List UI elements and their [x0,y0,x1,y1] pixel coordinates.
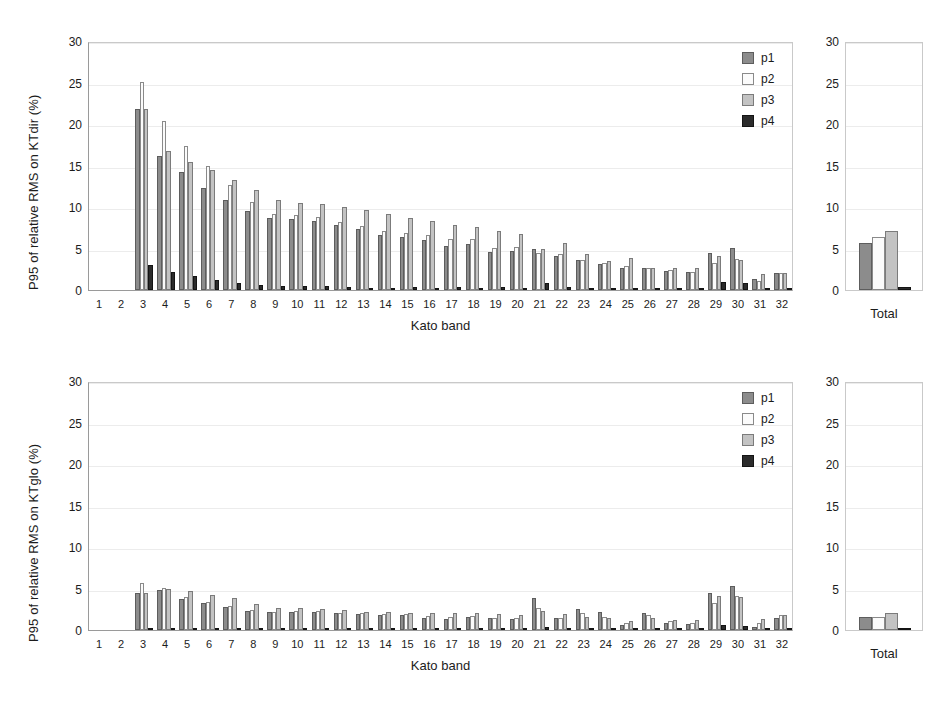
bar-group [530,43,552,290]
bar-p4 [589,288,593,290]
x-tick-label: 30 [727,299,749,310]
legend-item-p1[interactable]: p1 [742,390,802,407]
legend-label-p2: p2 [761,411,774,428]
legend-item-p3[interactable]: p3 [742,432,802,449]
bar-p4 [743,283,747,290]
legend-item-p2[interactable]: p2 [742,411,802,428]
bar-p4 [325,628,329,630]
bar-group [89,383,111,630]
bar-p3 [210,595,214,630]
bar-p3 [144,593,148,630]
legend-label-p1: p1 [761,50,774,67]
y-axis-title-ktdir: P95 of relative RMS on KTdir (%) [26,95,41,290]
bar-group [309,383,331,630]
y-tick-label: 20 [809,119,839,131]
bar-p4 [655,288,659,290]
y-tick-label: 0 [52,625,82,637]
x-tick-label: 27 [661,639,683,650]
bar-group [530,383,552,630]
bar-p3 [342,207,346,290]
legend-swatch-p3-icon [742,434,754,446]
bar-p3 [276,200,280,290]
bar-p3 [475,227,479,290]
legend-item-p2[interactable]: p2 [742,71,802,88]
bar-group [353,43,375,290]
bar-p4 [303,628,307,630]
bar-p3 [364,210,368,291]
y-tick-label: 25 [809,418,839,430]
bar-total-p3 [885,231,898,290]
bar-p3 [386,214,390,290]
bar-p3 [563,243,567,290]
x-tick-label: 30 [727,639,749,650]
bar-p3 [320,204,324,290]
y-tick-label: 0 [809,625,839,637]
bar-p3 [519,234,523,290]
bar-group [508,383,530,630]
x-tick-label: 32 [771,299,793,310]
bar-p3 [298,608,302,630]
legend-item-p4[interactable]: p4 [742,453,802,470]
legend-swatch-p3-icon [742,94,754,106]
x-tick-label: 27 [661,299,683,310]
bar-p4 [699,288,703,290]
bar-group [662,383,684,630]
legend-swatch-p1-icon [742,52,754,64]
x-tick-label: 4 [154,299,176,310]
x-tick-label: 26 [639,299,661,310]
bar-group [464,383,486,630]
bar-group [684,383,706,630]
x-tick-label: 21 [529,639,551,650]
bar-p3 [651,268,655,290]
x-tick-label: 15 [396,299,418,310]
bar-p4 [523,288,527,290]
bar-group [243,43,265,290]
bar-p3 [342,610,346,630]
x-tick-label: 22 [551,639,573,650]
bar-group [662,43,684,290]
legend-item-p1[interactable]: p1 [742,50,802,67]
x-tick-label: 1 [88,639,110,650]
bar-p4 [611,628,615,630]
bar-p4 [457,628,461,630]
bar-group [265,383,287,630]
bar-p4 [347,287,351,290]
bar-p4 [743,626,747,630]
bar-p4 [259,285,263,290]
bar-group [287,43,309,290]
bar-group [574,43,596,290]
bar-group-total [846,43,924,290]
legend-item-p4[interactable]: p4 [742,113,802,130]
bar-group [706,43,728,290]
bar-group [508,43,530,290]
legend-label-p1: p1 [761,390,774,407]
bar-group [684,43,706,290]
bar-group [486,43,508,290]
bar-group [464,43,486,290]
x-tick-label: 26 [639,639,661,650]
bar-p4 [237,283,241,290]
figure-root: P95 of relative RMS on KTdir (%) 0510152… [0,0,940,704]
bar-p4 [589,628,593,630]
y-tick-label: 20 [52,459,82,471]
x-tick-label: 14 [374,639,396,650]
legend-swatch-p2-icon [742,413,754,425]
bar-group [155,43,177,290]
bar-group [133,43,155,290]
x-tick-label: 10 [286,639,308,650]
bar-p4 [721,282,725,290]
bar-p3 [695,268,699,290]
bar-total-p1 [859,243,872,290]
x-tick-label: 16 [418,299,440,310]
bar-p3 [629,258,633,290]
plot-area-ktglo [88,382,793,631]
bar-group [552,43,574,290]
legend-item-p3[interactable]: p3 [742,92,802,109]
plot-area-ktglo-total [845,382,923,631]
legend-label-p4: p4 [761,113,774,130]
legend-label-p3: p3 [761,432,774,449]
bar-p4 [457,287,461,290]
bar-group [177,43,199,290]
x-tick-label: 2 [110,639,132,650]
bar-p4 [325,286,329,290]
